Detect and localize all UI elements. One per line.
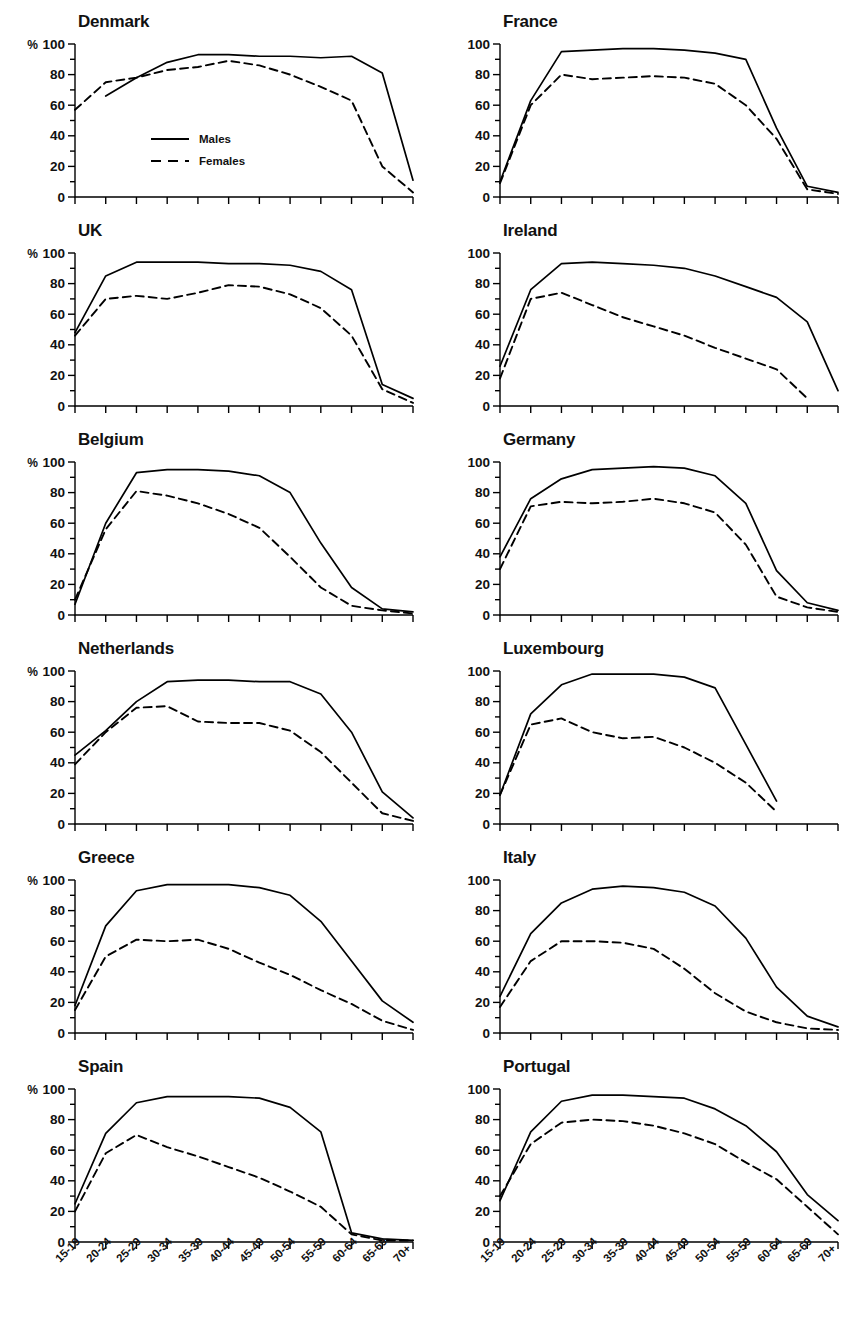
series-line-females bbox=[500, 941, 838, 1030]
axis-lines bbox=[500, 253, 838, 406]
plot-area: 020406080100 bbox=[425, 836, 850, 1045]
y-tick-label: 20 bbox=[50, 159, 65, 174]
y-tick-label: 0 bbox=[57, 1026, 65, 1041]
plot-area: 020406080100 bbox=[425, 0, 850, 209]
series-line-males bbox=[75, 885, 413, 1023]
y-tick-label: 100 bbox=[42, 1082, 65, 1097]
panel-title: Greece bbox=[78, 848, 134, 868]
y-axis-unit-label: % bbox=[27, 874, 38, 888]
panel-title: Denmark bbox=[78, 12, 149, 32]
series-line-males bbox=[75, 470, 413, 612]
series-line-males bbox=[500, 886, 838, 1027]
y-axis-unit-label: % bbox=[27, 38, 38, 52]
legend-item-females: Females bbox=[150, 150, 245, 172]
chart-panel-germany: 020406080100Germany bbox=[425, 418, 850, 627]
legend-males-line-swatch bbox=[150, 134, 190, 144]
y-tick-label: 20 bbox=[475, 786, 490, 801]
series-line-females bbox=[500, 499, 838, 612]
chart-panel-ireland: 020406080100Ireland bbox=[425, 209, 850, 418]
y-tick-label: 60 bbox=[475, 1143, 490, 1158]
y-tick-label: 100 bbox=[42, 455, 65, 470]
y-tick-label: 60 bbox=[50, 516, 65, 531]
y-tick-label: 20 bbox=[475, 368, 490, 383]
y-tick-label: 80 bbox=[50, 67, 65, 82]
y-tick-label: 0 bbox=[57, 817, 65, 832]
legend-females-line-swatch bbox=[150, 156, 190, 166]
y-tick-label: 60 bbox=[475, 934, 490, 949]
y-tick-label: 60 bbox=[50, 934, 65, 949]
y-tick-label: 20 bbox=[50, 786, 65, 801]
plot-area: 020406080100% bbox=[0, 1045, 425, 1254]
y-tick-label: 80 bbox=[475, 903, 490, 918]
y-tick-label: 40 bbox=[475, 337, 490, 352]
y-tick-label: 80 bbox=[50, 1112, 65, 1127]
series-line-females bbox=[75, 940, 413, 1030]
plot-area: 020406080100 bbox=[425, 627, 850, 836]
y-axis-unit-label: % bbox=[27, 247, 38, 261]
panel-title: Italy bbox=[503, 848, 536, 868]
panel-title: Netherlands bbox=[78, 639, 174, 659]
axis-lines bbox=[75, 253, 413, 406]
series-line-males bbox=[75, 680, 413, 818]
y-tick-label: 0 bbox=[482, 817, 490, 832]
plot-area: 020406080100% bbox=[0, 0, 425, 209]
panel-title: UK bbox=[78, 221, 102, 241]
y-tick-label: 100 bbox=[467, 455, 490, 470]
y-tick-label: 60 bbox=[475, 516, 490, 531]
x-axis-labels-col-right: 15-1920-2425-2930-3435-3940-4445-4950-54… bbox=[425, 1248, 850, 1326]
legend-males-label: Males bbox=[199, 133, 231, 145]
y-tick-label: 100 bbox=[467, 1082, 490, 1097]
y-tick-label: 0 bbox=[57, 608, 65, 623]
panel-title: Portugal bbox=[503, 1057, 570, 1077]
y-tick-label: 80 bbox=[50, 485, 65, 500]
y-tick-label: 100 bbox=[42, 246, 65, 261]
plot-area: 020406080100 bbox=[425, 209, 850, 418]
panel-title: Spain bbox=[78, 1057, 123, 1077]
series-line-females bbox=[500, 75, 838, 194]
y-tick-label: 40 bbox=[50, 755, 65, 770]
series-line-males bbox=[500, 49, 838, 193]
chart-panel-uk: 020406080100%UK bbox=[0, 209, 425, 418]
y-tick-label: 80 bbox=[475, 485, 490, 500]
axis-lines bbox=[75, 44, 413, 197]
chart-panel-netherlands: 020406080100%Netherlands bbox=[0, 627, 425, 836]
x-axis-labels-col-left: 15-1920-2425-2930-3435-3940-4445-4950-54… bbox=[0, 1248, 425, 1326]
chart-panel-greece: 020406080100%Greece bbox=[0, 836, 425, 1045]
series-line-females bbox=[75, 61, 413, 193]
panel-title: Ireland bbox=[503, 221, 557, 241]
legend-item-males: Males bbox=[150, 128, 245, 150]
plot-area: 020406080100 bbox=[425, 1045, 850, 1254]
chart-panel-belgium: 020406080100%Belgium bbox=[0, 418, 425, 627]
series-line-males bbox=[500, 1095, 838, 1220]
chart-panel-denmark: 020406080100%DenmarkMalesFemales bbox=[0, 0, 425, 209]
y-tick-label: 20 bbox=[475, 1204, 490, 1219]
y-tick-label: 0 bbox=[57, 190, 65, 205]
plot-area: 020406080100% bbox=[0, 836, 425, 1045]
y-tick-label: 100 bbox=[467, 37, 490, 52]
panel-grid: 020406080100%DenmarkMalesFemales02040608… bbox=[0, 0, 850, 1338]
y-axis-unit-label: % bbox=[27, 665, 38, 679]
y-tick-label: 60 bbox=[50, 725, 65, 740]
y-tick-label: 60 bbox=[50, 98, 65, 113]
panel-title: Luxembourg bbox=[503, 639, 604, 659]
series-line-males bbox=[500, 467, 838, 611]
legend: MalesFemales bbox=[150, 128, 245, 172]
y-tick-label: 20 bbox=[475, 159, 490, 174]
panel-title: Belgium bbox=[78, 430, 144, 450]
y-tick-label: 60 bbox=[475, 98, 490, 113]
chart-panel-portugal: 020406080100Portugal bbox=[425, 1045, 850, 1254]
y-tick-label: 40 bbox=[50, 546, 65, 561]
panel-title: Germany bbox=[503, 430, 575, 450]
series-line-females bbox=[500, 718, 777, 811]
y-tick-label: 40 bbox=[475, 128, 490, 143]
legend-females-label: Females bbox=[199, 155, 245, 167]
y-tick-label: 80 bbox=[475, 694, 490, 709]
axis-lines bbox=[500, 880, 838, 1033]
y-tick-label: 40 bbox=[475, 1173, 490, 1188]
y-tick-label: 20 bbox=[50, 368, 65, 383]
y-tick-label: 80 bbox=[475, 1112, 490, 1127]
y-tick-label: 80 bbox=[475, 67, 490, 82]
y-tick-label: 20 bbox=[50, 1204, 65, 1219]
y-tick-label: 60 bbox=[50, 1143, 65, 1158]
y-tick-label: 0 bbox=[57, 399, 65, 414]
